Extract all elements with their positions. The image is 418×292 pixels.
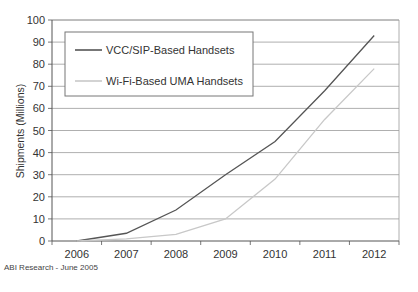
y-tick-label: 60: [33, 102, 45, 114]
x-tick-label: 2009: [213, 248, 237, 260]
y-tick-label: 90: [33, 36, 45, 48]
x-tick-label: 2008: [164, 248, 188, 260]
y-tick-label: 0: [39, 235, 45, 247]
y-axis-title: Shipments (Millions): [14, 84, 26, 179]
legend: VCC/SIP-Based Handsets Wi-Fi-Based UMA H…: [65, 32, 253, 96]
y-tick-label: 20: [33, 191, 45, 203]
x-tick-label: 2010: [263, 248, 287, 260]
y-tick-label: 70: [33, 80, 45, 92]
x-tick-label: 2006: [65, 248, 89, 260]
y-tick-label: 80: [33, 58, 45, 70]
x-axis-ticks: 2006200720082009201020112012: [52, 241, 399, 260]
y-tick-label: 40: [33, 147, 45, 159]
x-tick-label: 2011: [313, 248, 337, 260]
legend-label-vcc: VCC/SIP-Based Handsets: [106, 44, 235, 56]
x-tick-label: 2012: [362, 248, 386, 260]
source-note: ABI Research - June 2005: [4, 263, 98, 272]
line-chart: 0102030405060708090100 20062007200820092…: [0, 0, 418, 292]
x-tick-label: 2007: [114, 248, 138, 260]
y-tick-label: 10: [33, 213, 45, 225]
y-tick-label: 100: [27, 14, 45, 26]
y-tick-label: 30: [33, 169, 45, 181]
legend-label-wifi: Wi-Fi-Based UMA Handsets: [106, 75, 243, 87]
y-tick-label: 50: [33, 125, 45, 137]
y-axis-ticks: 0102030405060708090100: [27, 14, 52, 247]
